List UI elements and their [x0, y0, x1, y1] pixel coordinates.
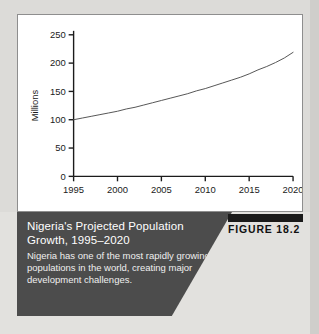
x-tick-label: 2020 [283, 184, 302, 195]
caption-body: Nigeria has one of the most rapidly grow… [27, 250, 222, 287]
y-tick-label: 200 [50, 57, 66, 68]
chart-panel: 050100150200250199520002005201020152020M… [17, 14, 303, 212]
x-tick-label: 2005 [151, 184, 172, 195]
y-tick-label: 50 [55, 142, 65, 153]
x-tick-label: 1995 [63, 184, 84, 195]
figure-badge: FIGURE 18.2 [228, 214, 303, 235]
figure-number-label: FIGURE 18.2 [228, 223, 299, 235]
caption-block: Nigeria's Projected Population Growth, 1… [17, 212, 232, 316]
caption-area: Nigeria's Projected Population Growth, 1… [0, 212, 319, 334]
x-tick-label: 2010 [195, 184, 216, 195]
page-edge-strip [310, 0, 319, 334]
caption-title: Nigeria's Projected Population Growth, 1… [27, 219, 222, 247]
y-tick-label: 100 [50, 114, 66, 125]
population-line-chart: 050100150200250199520002005201020152020M… [18, 15, 302, 211]
x-tick-label: 2015 [239, 184, 260, 195]
figure-container: 050100150200250199520002005201020152020M… [0, 0, 319, 334]
y-tick-label: 150 [50, 86, 66, 97]
badge-bar-decoration [228, 214, 303, 222]
y-axis-title: Millions [29, 90, 40, 122]
data-line-projected-population [74, 52, 293, 119]
x-tick-label: 2000 [107, 184, 128, 195]
y-tick-label: 250 [50, 29, 66, 40]
y-tick-label: 0 [60, 171, 65, 182]
